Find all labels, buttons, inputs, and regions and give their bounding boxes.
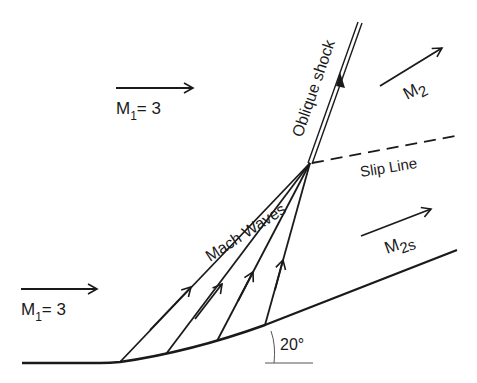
label-mach-waves: Mach Waves <box>202 200 288 264</box>
label-m2s: M2s <box>382 230 418 262</box>
label-slip-line: Slip Line <box>359 154 418 180</box>
downstream-arrow-m2s <box>361 209 431 236</box>
mach-waves <box>120 163 310 362</box>
label-m1-bottom: M1= 3 <box>21 300 66 324</box>
wall <box>22 250 457 363</box>
label-m2: M2 <box>400 76 431 107</box>
label-wall-angle: 20° <box>280 336 304 353</box>
label-oblique-shock: Oblique shock <box>289 37 338 139</box>
shock-diagram: M1= 3 M1= 3 M2 M2s Oblique shock Slip Li… <box>0 0 477 383</box>
label-m1-top: M1= 3 <box>116 99 161 123</box>
